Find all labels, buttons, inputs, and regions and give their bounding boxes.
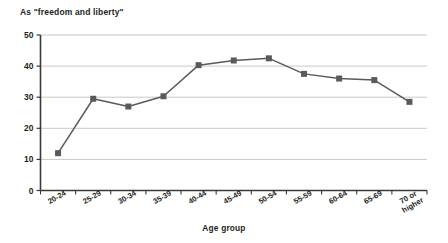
y-axis-tick-label: 50 [24,30,34,40]
data-point-marker [266,55,272,61]
chart-container: As "freedom and liberty" 0102030405020-2… [0,0,448,243]
data-point-marker [55,150,61,156]
data-point-marker [90,96,96,102]
data-point-marker [336,76,342,82]
data-point-marker [301,71,307,77]
data-point-marker [406,99,412,105]
data-series-line [58,58,409,153]
y-axis-tick-label: 40 [24,61,34,71]
y-axis-tick-label: 20 [24,123,34,133]
data-point-marker [371,77,377,83]
y-axis-tick-label: 10 [24,154,34,164]
data-point-marker [231,58,237,64]
data-point-marker [196,62,202,68]
x-axis-title: Age group [0,223,448,233]
line-chart-plot: 0102030405020-2425-2930-3435-3940-4445-4… [0,0,448,243]
data-point-marker [125,104,131,110]
y-axis-tick-label: 30 [24,92,34,102]
y-axis-tick-label: 0 [29,186,34,196]
x-axis-tick-label: 70 orhigher [396,188,425,215]
data-point-marker [160,93,166,99]
